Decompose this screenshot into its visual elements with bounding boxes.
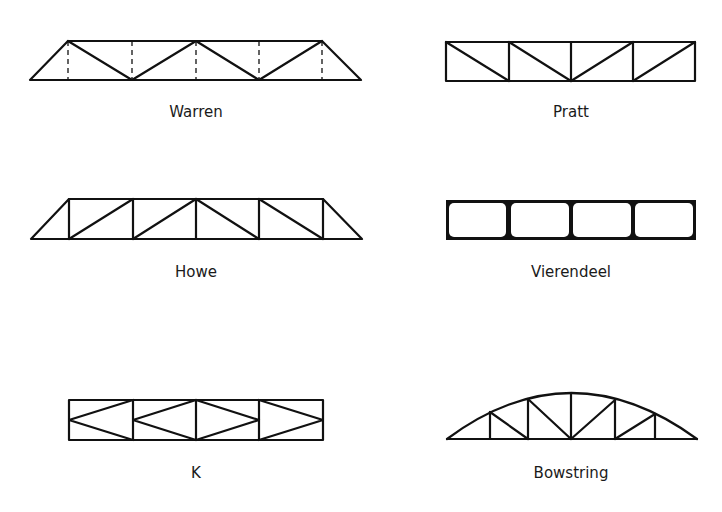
- bowstring-label: Bowstring: [534, 466, 609, 481]
- pratt-label: Pratt: [553, 105, 589, 120]
- howe-truss: [31, 199, 362, 239]
- warren-diagonals: [68, 41, 322, 80]
- vierendeel-label: Vierendeel: [531, 265, 611, 280]
- k-truss: [69, 400, 323, 440]
- warren-truss: [30, 41, 361, 80]
- warren-label: Warren: [169, 105, 223, 120]
- bowstring-truss: [447, 393, 697, 439]
- vierendeel-truss: [446, 200, 696, 240]
- howe-label: Howe: [175, 265, 217, 280]
- truss-diagram-canvas: [0, 0, 722, 512]
- pratt-truss: [446, 42, 695, 81]
- k-label: K: [191, 466, 201, 481]
